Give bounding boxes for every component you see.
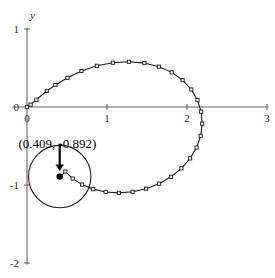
y-tick-label: -1 (10, 179, 19, 191)
data-point-marker (92, 188, 95, 191)
data-point-marker (66, 76, 69, 79)
curve-markers (25, 60, 203, 194)
data-point-marker (201, 122, 204, 125)
data-point-marker (127, 60, 130, 63)
data-point-marker (190, 88, 193, 91)
data-point-marker (189, 157, 192, 160)
data-point-marker (35, 98, 38, 101)
data-point-marker (199, 134, 202, 137)
x-tick-label: 2 (184, 112, 190, 124)
data-point-marker (95, 64, 98, 67)
data-point-marker (80, 69, 83, 72)
y-tick-label: 1 (14, 23, 20, 35)
data-point-marker (180, 167, 183, 170)
data-point-marker (29, 103, 32, 106)
x-tick-label: 0 (24, 112, 30, 124)
traced-point-dot (57, 173, 63, 179)
data-point-marker (196, 99, 199, 102)
data-point-marker (64, 170, 67, 173)
data-point-marker (81, 183, 84, 186)
data-point-marker (71, 177, 74, 180)
data-point-marker (200, 110, 203, 113)
arrow-head (56, 164, 64, 171)
data-point-marker (195, 146, 198, 149)
x-tick-labels: 0123 (24, 112, 270, 124)
x-tick-label: 3 (264, 112, 270, 124)
data-point-marker (131, 190, 134, 193)
data-point-marker (170, 71, 173, 74)
y-axis-label: y (29, 9, 35, 21)
data-point-marker (117, 191, 120, 194)
y-tick-label: -2 (10, 257, 19, 269)
cardioid-plot: 0123 10-1-2 x y (0.409, -0.892) (0, 0, 275, 278)
data-point-marker (169, 175, 172, 178)
data-point-marker (104, 190, 107, 193)
data-point-marker (25, 105, 28, 108)
data-point-marker (157, 65, 160, 68)
data-point-marker (181, 78, 184, 81)
data-point-marker (54, 83, 57, 86)
x-tick-label: 1 (104, 112, 110, 124)
curve-line (27, 62, 202, 193)
data-point-marker (143, 61, 146, 64)
data-point-marker (111, 61, 114, 64)
data-point-marker (145, 187, 148, 190)
point-coordinate-label: (0.409, -0.892) (18, 136, 96, 151)
figure-canvas: 0123 10-1-2 x y (0.409, -0.892) (0, 0, 275, 278)
data-point-marker (157, 182, 160, 185)
y-tick-label: 0 (14, 101, 20, 113)
data-point-marker (45, 89, 48, 92)
